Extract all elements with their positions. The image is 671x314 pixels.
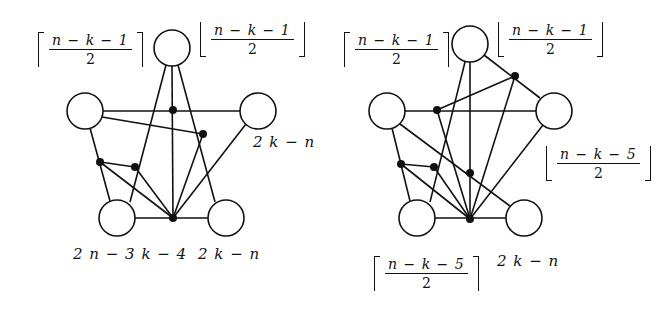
- denominator: 2: [86, 50, 95, 67]
- floor-right-bracket: [299, 22, 305, 57]
- vertex-circles: [67, 26, 572, 236]
- denominator: 2: [422, 274, 431, 291]
- numerator: n − k − 1: [49, 32, 132, 50]
- numerator: n − k − 5: [557, 146, 640, 164]
- ceil-right-bracket: [443, 32, 449, 67]
- ceil-right-bracket: [473, 256, 479, 291]
- right-top-left-label: n − k − 1 2: [344, 32, 449, 67]
- numerator: n − k − 1: [509, 22, 592, 40]
- left-graph-edges: [90, 65, 246, 218]
- numerator: n − k − 1: [355, 32, 438, 50]
- right-bottom-left-label: n − k − 5 2: [374, 256, 479, 291]
- left-top-right-label: n − k − 1 2: [200, 22, 305, 57]
- right-bottom-right-label: 2 k − n: [497, 252, 559, 270]
- denominator: 2: [546, 40, 555, 57]
- denominator: 2: [594, 164, 603, 181]
- left-bottom-left-label: 2 n − 3 k − 4: [73, 245, 187, 263]
- right-top-right-label: n − k − 1 2: [498, 22, 603, 57]
- numerator: n − k − 5: [385, 256, 468, 274]
- left-bottom-right-label: 2 k − n: [198, 245, 260, 263]
- ceil-right-bracket: [137, 32, 143, 67]
- right-right-label: n − k − 5 2: [546, 146, 651, 181]
- left-right-label: 2 k − n: [253, 133, 315, 151]
- floor-right-bracket: [645, 146, 651, 181]
- denominator: 2: [248, 40, 257, 57]
- left-top-left-label: n − k − 1 2: [38, 32, 143, 67]
- denominator: 2: [392, 50, 401, 67]
- floor-right-bracket: [597, 22, 603, 57]
- right-graph-edges: [392, 55, 543, 219]
- numerator: n − k − 1: [211, 22, 294, 40]
